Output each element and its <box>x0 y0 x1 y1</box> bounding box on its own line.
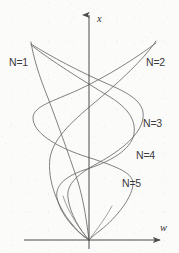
w-axis-label: w <box>160 222 167 233</box>
curve-label-n5: N=5 <box>122 178 141 189</box>
curve-label-n4: N=4 <box>136 150 155 161</box>
figure-page: x w N=1 N=2 N=3 N=4 N=5 <box>0 0 179 253</box>
curve-n4 <box>33 43 156 240</box>
curve-n2 <box>50 41 156 240</box>
curve-n3 <box>31 44 143 240</box>
curve-label-n1: N=1 <box>9 57 28 68</box>
curve-label-n2: N=2 <box>146 57 165 68</box>
curve-group <box>31 41 156 240</box>
curve-label-n3: N=3 <box>143 118 162 129</box>
x-axis-label: x <box>97 13 102 24</box>
axis-group <box>24 15 160 249</box>
curve-n5 <box>31 45 134 240</box>
